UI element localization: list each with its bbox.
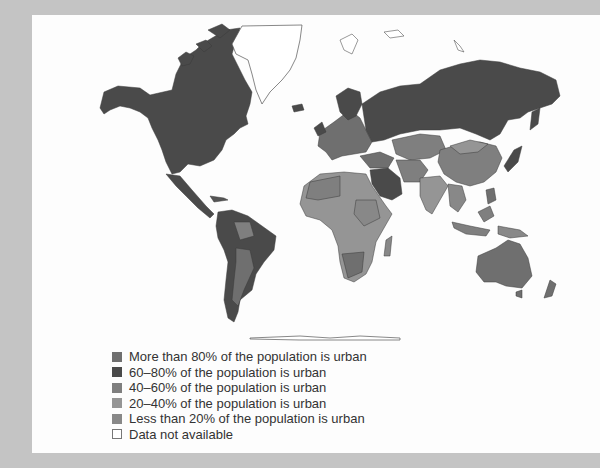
region-india: [420, 176, 448, 214]
map-legend: More than 80% of the population is urban…: [112, 349, 367, 442]
legend-swatch-no-data: [112, 429, 122, 439]
legend-label: 40–60% of the population is urban: [129, 380, 326, 395]
legend-swatch-20-40: [112, 398, 122, 408]
world-map: [0, 0, 600, 345]
legend-label: 60–80% of the population is urban: [129, 365, 326, 380]
legend-label: Less than 20% of the population is urban: [129, 411, 365, 426]
legend-label: More than 80% of the population is urban: [129, 349, 367, 364]
region-australia: [476, 240, 532, 288]
legend-swatch-over-80: [112, 352, 122, 362]
legend-item-over-80: More than 80% of the population is urban: [112, 349, 367, 365]
legend-item-20-40: 20–40% of the population is urban: [112, 396, 367, 412]
region-north-america: [100, 28, 252, 174]
legend-swatch-60-80: [112, 367, 122, 377]
region-japan: [504, 146, 522, 172]
legend-swatch-under-20: [112, 414, 122, 424]
legend-item-60-80: 60–80% of the population is urban: [112, 365, 367, 381]
legend-item-no-data: Data not available: [112, 427, 367, 443]
region-antarctica: [250, 336, 400, 340]
legend-item-40-60: 40–60% of the population is urban: [112, 380, 367, 396]
legend-swatch-40-60: [112, 383, 122, 393]
legend-label: 20–40% of the population is urban: [129, 396, 326, 411]
legend-item-under-20: Less than 20% of the population is urban: [112, 411, 367, 427]
legend-label: Data not available: [129, 427, 233, 442]
